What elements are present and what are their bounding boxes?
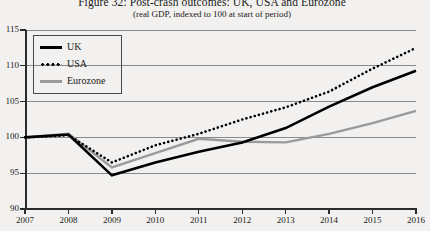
series-line-eurozone [25, 111, 416, 168]
legend-item-usa: USA [40, 56, 120, 72]
legend-label-uk: UK [67, 39, 81, 55]
legend-item-uk: UK [40, 39, 120, 55]
legend-swatch-usa-icon [40, 63, 62, 66]
legend-label-eurozone: Eurozone [67, 73, 105, 89]
legend-swatch-eurozone-icon [40, 80, 62, 83]
legend-label-usa: USA [67, 56, 87, 72]
legend-item-eurozone: Eurozone [40, 73, 120, 89]
chart-legend: UK USA Eurozone [33, 35, 122, 94]
legend-swatch-uk-icon [40, 46, 62, 49]
